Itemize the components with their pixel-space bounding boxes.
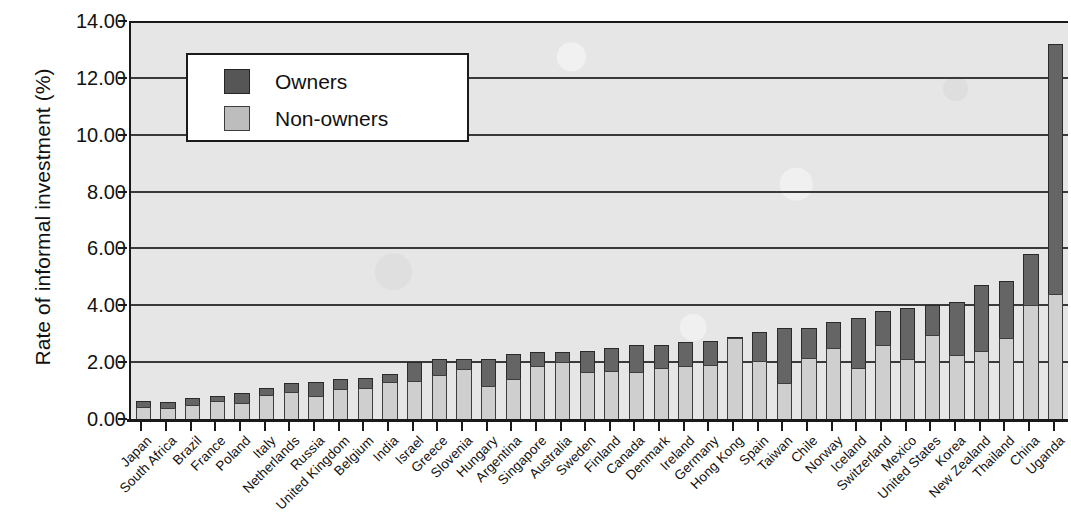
y-tick-mark <box>118 77 127 79</box>
bar-segment-non-owners <box>1023 305 1038 419</box>
bar-segment-owners <box>900 308 915 359</box>
x-tick-mark <box>929 422 931 431</box>
bar-segment-non-owners <box>284 392 299 419</box>
bar-segment-non-owners <box>777 383 792 419</box>
bar-segment-non-owners <box>604 371 619 419</box>
bar-segment-owners <box>777 328 792 383</box>
bar-segment-non-owners <box>136 407 151 419</box>
bar-singapore <box>530 352 545 419</box>
bar-ireland <box>678 342 693 419</box>
y-tick-mark <box>118 304 127 306</box>
bar-segment-owners <box>999 281 1014 338</box>
bar-segment-owners <box>456 359 471 369</box>
bar-thailand <box>999 281 1014 419</box>
bar-china <box>1023 254 1038 419</box>
x-tick-mark <box>165 422 167 431</box>
legend-swatch-owners <box>224 69 250 94</box>
bar-segment-non-owners <box>506 379 521 419</box>
bar-segment-non-owners <box>407 381 422 419</box>
bar-segment-non-owners <box>678 366 693 419</box>
bar-south-africa <box>160 402 175 419</box>
bar-united-states <box>925 305 940 419</box>
chart-legend: OwnersNon-owners <box>186 53 469 142</box>
x-tick-mark <box>412 422 414 431</box>
bar-segment-non-owners <box>358 388 373 419</box>
x-tick-mark <box>362 422 364 431</box>
x-tick-mark <box>1003 422 1005 431</box>
bar-segment-owners <box>875 311 890 345</box>
bar-poland <box>234 393 249 419</box>
bar-segment-non-owners <box>308 396 323 419</box>
bar-segment-owners <box>654 345 669 368</box>
bar-segment-owners <box>555 352 570 362</box>
bar-segment-owners <box>678 342 693 366</box>
x-tick-mark <box>1028 422 1030 431</box>
x-tick-mark <box>535 422 537 431</box>
bar-australia <box>555 352 570 419</box>
bar-segment-non-owners <box>727 338 742 419</box>
bar-segment-non-owners <box>974 351 989 419</box>
bar-hungary <box>481 359 496 419</box>
x-tick-mark <box>732 422 734 431</box>
x-tick-mark <box>757 422 759 431</box>
bar-chile <box>801 328 816 419</box>
bar-mexico <box>900 308 915 419</box>
bar-segment-owners <box>604 348 619 371</box>
legend-item-nonowners: Non-owners <box>224 106 388 131</box>
bar-segment-owners <box>358 378 373 388</box>
legend-item-owners: Owners <box>224 69 347 94</box>
bar-segment-owners <box>284 383 299 392</box>
x-tick-mark <box>683 422 685 431</box>
bar-segment-owners <box>801 328 816 358</box>
bar-norway <box>826 322 841 419</box>
bar-segment-owners <box>185 398 200 405</box>
bar-segment-non-owners <box>530 366 545 419</box>
bar-segment-non-owners <box>1048 294 1063 419</box>
bar-segment-non-owners <box>185 405 200 419</box>
x-tick-mark <box>781 422 783 431</box>
bar-denmark <box>654 345 669 419</box>
bar-iceland <box>851 318 866 419</box>
bar-segment-owners <box>703 341 718 365</box>
x-tick-mark <box>658 422 660 431</box>
bar-united-kingdom <box>333 379 348 419</box>
bar-segment-owners <box>382 374 397 383</box>
bar-segment-owners <box>432 359 447 375</box>
bar-spain <box>752 332 767 419</box>
bar-segment-owners <box>407 362 422 380</box>
x-tick-mark <box>510 422 512 431</box>
bar-segment-owners <box>851 318 866 368</box>
legend-label: Non-owners <box>275 107 388 131</box>
bar-segment-owners <box>530 352 545 366</box>
bar-uganda <box>1048 44 1063 419</box>
bar-netherlands <box>284 383 299 419</box>
bar-segment-owners <box>1023 254 1038 305</box>
x-tick-mark <box>288 422 290 431</box>
x-tick-mark <box>855 422 857 431</box>
bar-segment-non-owners <box>999 338 1014 419</box>
bar-segment-owners <box>752 332 767 360</box>
x-tick-mark <box>486 422 488 431</box>
bar-segment-non-owners <box>629 372 644 419</box>
bar-segment-non-owners <box>826 348 841 419</box>
y-tick-mark <box>118 20 127 22</box>
x-tick-mark <box>461 422 463 431</box>
bar-segment-non-owners <box>456 369 471 419</box>
bar-segment-owners <box>506 354 521 380</box>
x-tick-mark <box>387 422 389 431</box>
bar-segment-owners <box>949 302 964 355</box>
x-tick-mark <box>806 422 808 431</box>
bar-segment-owners <box>826 322 841 348</box>
bar-segment-non-owners <box>851 368 866 419</box>
x-tick-mark <box>264 422 266 431</box>
y-axis-tick-labels: 0.002.004.006.008.0010.0012.0014.00 <box>36 0 126 504</box>
bar-greece <box>432 359 447 419</box>
legend-swatch-nonowners <box>224 106 250 131</box>
y-tick-mark <box>118 418 127 420</box>
bar-segment-non-owners <box>382 382 397 419</box>
bar-israel <box>407 362 422 419</box>
bar-italy <box>259 388 274 419</box>
bar-segment-owners <box>1048 44 1063 294</box>
bar-segment-non-owners <box>234 403 249 419</box>
bar-segment-non-owners <box>703 365 718 419</box>
